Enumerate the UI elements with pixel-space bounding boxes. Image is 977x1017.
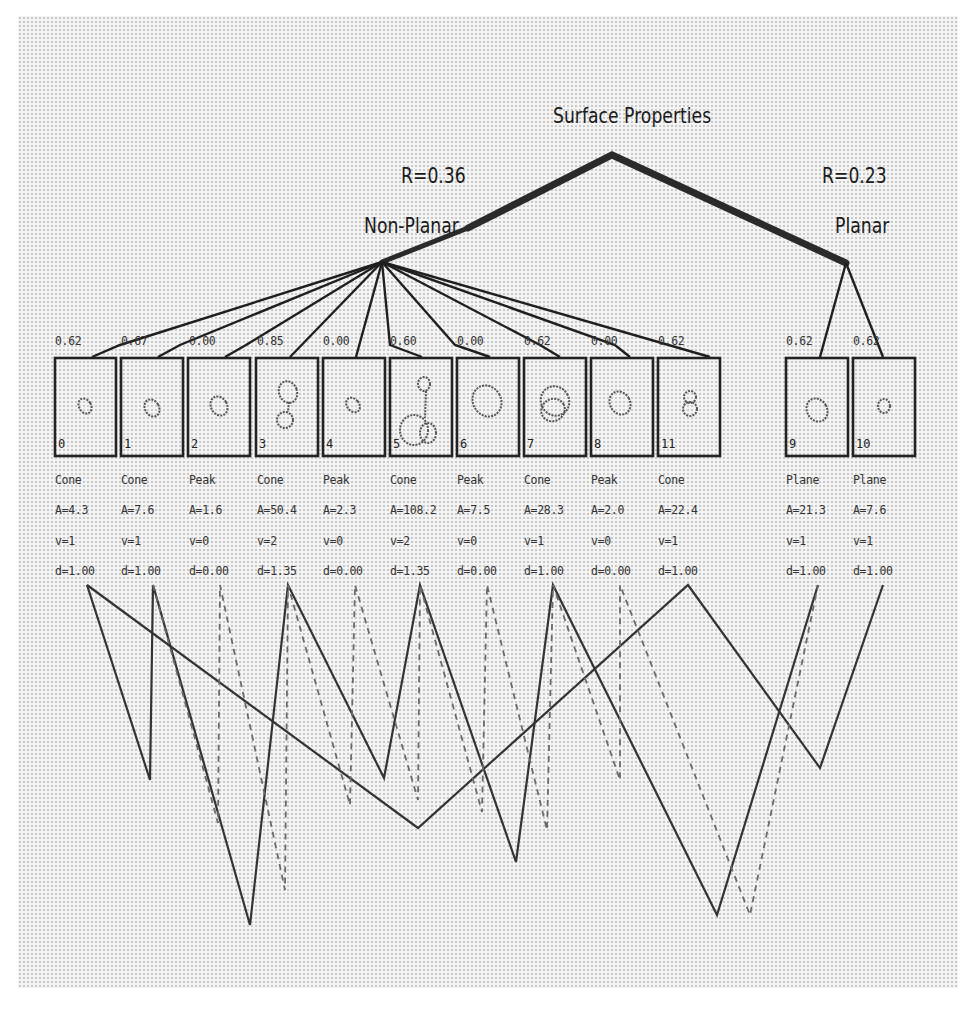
segment-v: v=0 (323, 534, 343, 548)
segment-d: d=1.00 (121, 564, 161, 578)
segment-d: d=1.35 (390, 564, 430, 578)
segment-type: Peak (189, 473, 216, 487)
segment-score: 0.60 (390, 334, 417, 348)
segment-type: Cone (524, 473, 551, 487)
segment-id: 11 (661, 437, 675, 451)
segment-id: 10 (856, 437, 870, 451)
segment-type: Cone (390, 473, 417, 487)
segment-area: A=21.3 (786, 503, 826, 517)
segment-id: 6 (460, 437, 467, 451)
segment-area: A=1.6 (189, 503, 222, 517)
segment-score: 0.62 (55, 334, 82, 348)
segment-d: d=1.35 (257, 564, 297, 578)
segment-id: 3 (259, 437, 266, 451)
segment-area: A=7.6 (853, 503, 886, 517)
segment-type: Cone (658, 473, 685, 487)
segment-area: A=50.4 (257, 503, 297, 517)
segment-v: v=1 (658, 534, 678, 548)
segment-area: A=7.5 (457, 503, 490, 517)
segment-type: Plane (786, 473, 819, 487)
segment-score: 0.62 (658, 334, 685, 348)
segment-v: v=1 (121, 534, 141, 548)
segment-d: d=0.00 (591, 564, 631, 578)
segment-d: d=1.00 (55, 564, 95, 578)
segment-shapes (76, 377, 890, 445)
segment-d: d=1.00 (853, 564, 893, 578)
segment-area: A=7.6 (121, 503, 154, 517)
segment-d: d=0.00 (189, 564, 229, 578)
segment-d: d=1.00 (524, 564, 564, 578)
segment-score: 0.00 (189, 334, 216, 348)
segment-d: d=0.00 (457, 564, 497, 578)
segment-area: A=28.3 (524, 503, 564, 517)
segment-score: 0.85 (257, 334, 284, 348)
segment-id: 4 (326, 437, 333, 451)
relation-lines-dashed (153, 585, 818, 915)
segment-v: v=0 (457, 534, 477, 548)
segment-id: 2 (191, 437, 198, 451)
non-planar-r-value: R=0.36 (401, 164, 466, 188)
segment-id: 0 (58, 437, 65, 451)
segment-area: A=2.0 (591, 503, 624, 517)
segment-score: 0.67 (121, 334, 148, 348)
segment-score: 0.00 (591, 334, 618, 348)
planar-label: Planar (835, 214, 889, 238)
segment-area: A=22.4 (658, 503, 698, 517)
segment-v: v=2 (390, 534, 410, 548)
planar-r-value: R=0.23 (822, 164, 887, 188)
segment-type: Peak (591, 473, 618, 487)
segment-v: v=1 (55, 534, 75, 548)
segment-type: Cone (121, 473, 148, 487)
segment-score: 0.62 (524, 334, 551, 348)
segment-v: v=0 (189, 534, 209, 548)
segment-score: 0.00 (323, 334, 350, 348)
segment-v: v=1 (853, 534, 873, 548)
segment-score: 0.62 (786, 334, 813, 348)
segment-type: Plane (853, 473, 886, 487)
segment-v: v=1 (524, 534, 544, 548)
segment-id: 5 (393, 437, 400, 451)
segment-area: A=2.3 (323, 503, 356, 517)
segment-id: 9 (789, 437, 796, 451)
segment-id: 8 (594, 437, 601, 451)
segment-type: Peak (323, 473, 350, 487)
segment-d: d=1.00 (658, 564, 698, 578)
segment-score: 0.62 (853, 334, 880, 348)
segment-type: Cone (257, 473, 284, 487)
segment-d: d=0.00 (323, 564, 363, 578)
segment-v: v=2 (257, 534, 277, 548)
segment-d: d=1.00 (786, 564, 826, 578)
non-planar-label: Non-Planar (364, 214, 459, 238)
segment-v: v=1 (786, 534, 806, 548)
segment-id: 7 (527, 437, 534, 451)
segment-boxes (55, 358, 915, 456)
segment-type: Peak (457, 473, 484, 487)
segment-id: 1 (124, 437, 131, 451)
segment-area: A=108.2 (390, 503, 436, 517)
segment-score: 0.00 (457, 334, 484, 348)
segment-area: A=4.3 (55, 503, 88, 517)
segment-v: v=0 (591, 534, 611, 548)
root-label: Surface Properties (553, 104, 711, 128)
segment-type: Cone (55, 473, 82, 487)
